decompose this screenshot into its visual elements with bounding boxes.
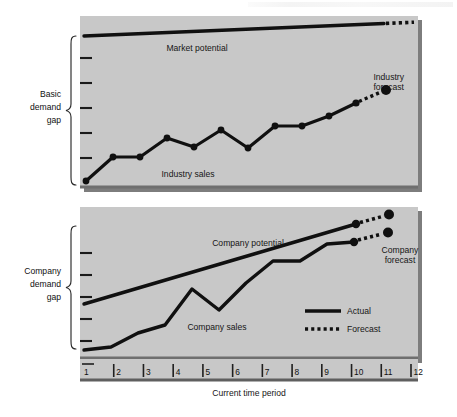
company-demand-gap-label-line2: demand — [30, 279, 61, 289]
legend-actual-label: Actual — [347, 306, 371, 316]
company-forecast-label-line1: Company — [382, 245, 419, 255]
x-tick-label-2: 2 — [116, 367, 121, 377]
industry-forecast-label-line2: forecast — [373, 82, 404, 92]
upper-panel: Market potential Industry sales Industry… — [80, 16, 422, 192]
company-potential-label: Company potential — [212, 238, 284, 248]
industry-sales-label: Industry sales — [161, 169, 214, 179]
x-tick-label-1: 1 — [84, 367, 89, 377]
basic-demand-gap-label-line1: Basic — [40, 89, 62, 99]
x-tick-label-12: 12 — [414, 367, 424, 377]
legend-forecast-label: Forecast — [347, 324, 381, 334]
basic-demand-gap-brace: Basic demand gap — [30, 36, 76, 185]
x-tick-label-9: 9 — [324, 367, 329, 377]
x-axis-band — [80, 359, 418, 380]
industry-forecast-label-line1: Industry — [373, 72, 404, 82]
company-potential-forecast-endpoint — [384, 210, 394, 220]
company-demand-gap-brace: Company demand gap — [24, 226, 76, 349]
company-forecast-endpoint — [383, 228, 393, 238]
x-tick-label-10: 10 — [354, 367, 364, 377]
x-tick-label-4: 4 — [176, 367, 181, 377]
x-tick-label-6: 6 — [235, 367, 240, 377]
x-tick-label-8: 8 — [295, 367, 300, 377]
company-demand-gap-label-line1: Company — [24, 266, 61, 276]
page-header-strip — [248, 2, 453, 7]
x-tick-label-5: 5 — [205, 367, 210, 377]
market-potential-label: Market potential — [166, 43, 227, 53]
x-axis: 123456789101112 — [80, 359, 423, 380]
company-demand-gap-label-line3: gap — [47, 292, 62, 302]
x-tick-label-7: 7 — [265, 367, 270, 377]
company-sales-label: Company sales — [187, 322, 246, 332]
basic-demand-gap-label-line2: demand — [30, 102, 61, 112]
x-tick-label-3: 3 — [146, 367, 151, 377]
company-potential-endpoint — [352, 220, 360, 228]
lower-panel: Company potential Company sales Company … — [80, 207, 422, 363]
basic-demand-gap-label-line3: gap — [47, 115, 62, 125]
company-sales-endpoint — [350, 238, 358, 246]
demand-gap-figure: Market potential Industry sales Industry… — [0, 0, 457, 417]
x-tick-label-11: 11 — [384, 367, 393, 377]
x-axis-title: Current time period — [212, 388, 286, 398]
company-forecast-label-line2: forecast — [385, 255, 416, 265]
upper-panel-background — [80, 16, 418, 188]
figure-container: Market potential Industry sales Industry… — [0, 0, 457, 417]
